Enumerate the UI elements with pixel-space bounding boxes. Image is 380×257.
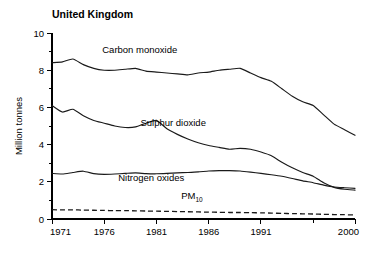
series-label-carbon-monoxide: Carbon monoxide <box>102 44 177 55</box>
y-tick-label: 0 <box>39 214 44 225</box>
chart-svg: United Kingdom Million tonnes 0246810 19… <box>0 0 380 257</box>
x-tick-label: 1976 <box>94 226 115 237</box>
x-tick-label: 1971 <box>50 226 71 237</box>
x-tick-label: 1991 <box>250 226 271 237</box>
series-label-nitrogen-oxides: Nitrogen oxides <box>118 172 184 183</box>
x-tick-label: 1986 <box>198 226 219 237</box>
series-label-sulphur-dioxide: Sulphur dioxide <box>140 117 206 128</box>
y-tick-label: 8 <box>39 65 44 76</box>
x-tick-label: 2000 <box>338 226 359 237</box>
chart-figure: United Kingdom Million tonnes 0246810 19… <box>0 0 380 257</box>
chart-title: United Kingdom <box>52 8 133 20</box>
y-tick-label: 6 <box>39 102 44 113</box>
y-tick-label: 10 <box>33 28 44 39</box>
y-axis-title: Million tonnes <box>13 97 24 155</box>
y-tick-label: 4 <box>39 139 44 150</box>
y-tick-label: 2 <box>39 176 44 187</box>
x-tick-label: 1981 <box>146 226 167 237</box>
